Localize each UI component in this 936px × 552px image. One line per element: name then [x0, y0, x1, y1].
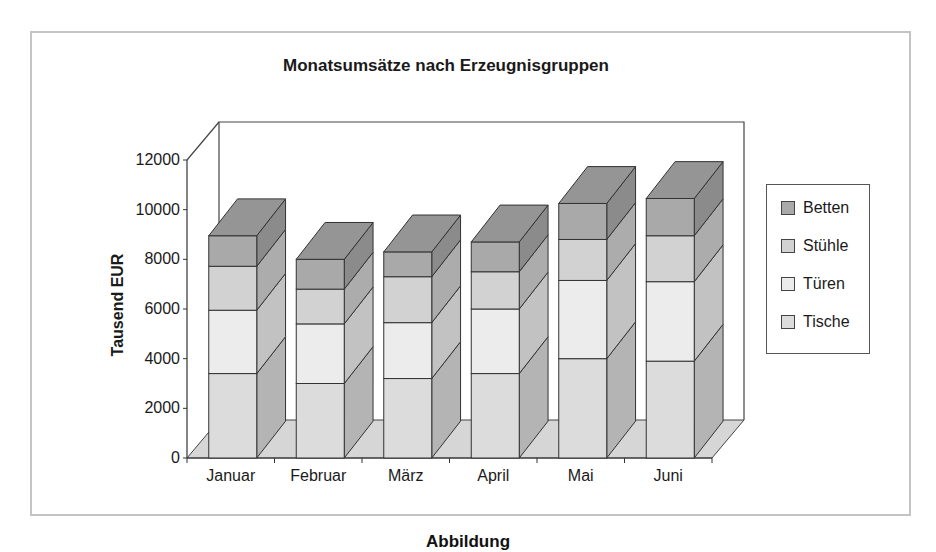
- legend-item-tueren: Türen: [781, 275, 845, 293]
- bar-segment-stühle: [296, 289, 344, 324]
- bar-segment-tische: [646, 361, 694, 458]
- y-tick-label: 0: [171, 449, 180, 467]
- bar-segment-stühle: [471, 272, 519, 309]
- legend-swatch-betten: [781, 201, 795, 215]
- side-wall-edge: [187, 122, 219, 160]
- y-tick-label: 12000: [136, 151, 181, 169]
- legend: Betten Stühle Türen Tische: [766, 184, 870, 354]
- bar-segment-betten: [559, 203, 607, 239]
- bar-segment-betten: [384, 252, 432, 277]
- legend-swatch-tische: [781, 315, 795, 329]
- bar-segment-tische: [559, 359, 607, 458]
- bar-segment-türen: [471, 309, 519, 374]
- legend-label: Tische: [803, 313, 850, 331]
- x-tick-label: Februar: [290, 467, 346, 485]
- bar-segment-tische: [209, 374, 257, 458]
- y-tick-label: 10000: [136, 201, 181, 219]
- figure-caption: Abbildung: [0, 532, 936, 552]
- legend-item-stuehle: Stühle: [781, 237, 848, 255]
- bar-segment-betten: [209, 236, 257, 267]
- bar-segment-türen: [296, 324, 344, 384]
- bar-segment-tische: [296, 384, 344, 459]
- y-axis-label: Tausend EUR: [109, 254, 127, 357]
- bar-segment-türen: [384, 323, 432, 379]
- x-tick-label: Mai: [568, 467, 594, 485]
- bar-segment-stühle: [384, 277, 432, 323]
- legend-label: Betten: [803, 199, 849, 217]
- y-tick-label: 8000: [144, 250, 180, 268]
- bar-segment-türen: [209, 310, 257, 373]
- legend-item-tische: Tische: [781, 313, 850, 331]
- bar-segment-stühle: [559, 239, 607, 280]
- x-tick-label: April: [477, 467, 509, 485]
- legend-label: Stühle: [803, 237, 848, 255]
- bar-segment-tische: [471, 374, 519, 458]
- bar-segment-betten: [471, 242, 519, 272]
- legend-item-betten: Betten: [781, 199, 849, 217]
- legend-label: Türen: [803, 275, 845, 293]
- y-tick-label: 2000: [144, 399, 180, 417]
- x-tick-label: Juni: [654, 467, 683, 485]
- legend-swatch-tueren: [781, 277, 795, 291]
- y-tick-label: 4000: [144, 350, 180, 368]
- x-tick-label: Januar: [206, 467, 255, 485]
- bar-segment-betten: [646, 198, 694, 235]
- x-tick-label: März: [388, 467, 424, 485]
- bar-segment-stühle: [646, 236, 694, 282]
- legend-swatch-stuehle: [781, 239, 795, 253]
- bar-segment-türen: [559, 280, 607, 358]
- bar-segment-tische: [384, 379, 432, 458]
- y-tick-label: 6000: [144, 300, 180, 318]
- bar-segment-türen: [646, 282, 694, 361]
- bar-segment-betten: [296, 259, 344, 289]
- bar-segment-stühle: [209, 266, 257, 310]
